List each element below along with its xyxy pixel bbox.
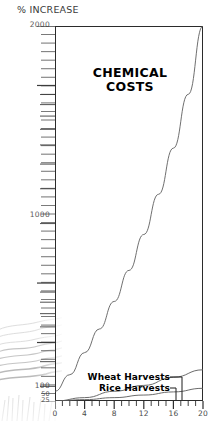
- x-tick-label-12: 12: [139, 409, 149, 418]
- legend-label-rice: Rice Harvests: [60, 383, 170, 393]
- chart-title-line-2: COSTS: [106, 79, 154, 94]
- chart-title: CHEMICAL COSTS: [70, 66, 190, 93]
- legend-label-wheat: Wheat Harvests: [60, 372, 170, 382]
- x-tick-label-20: 20: [198, 409, 208, 418]
- legend-leader-lines: [168, 370, 208, 402]
- x-axis-tick-labels: 048121620: [55, 409, 205, 421]
- x-tick-label-0: 0: [53, 409, 58, 418]
- x-tick-label-8: 8: [112, 409, 117, 418]
- y-axis-caption: % INCREASE: [17, 4, 79, 15]
- y-axis-tick-marks: [36, 26, 55, 402]
- x-tick-label-4: 4: [82, 409, 87, 418]
- x-tick-label-16: 16: [168, 409, 178, 418]
